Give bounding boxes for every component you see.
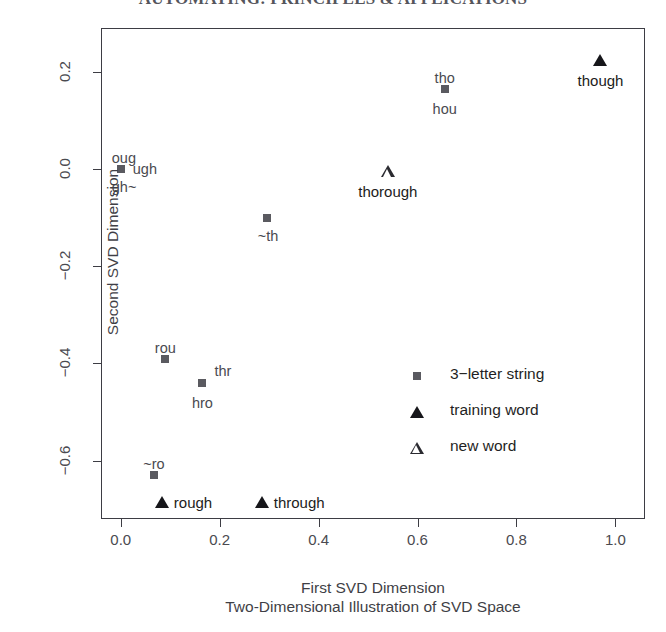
x-tick-label: 0.8 <box>506 531 527 548</box>
figure-subtitle: Two-Dimensional Illustration of SVD Spac… <box>61 598 666 616</box>
x-tick-mark <box>516 519 517 527</box>
svd-scatter-figure: 0.20.0−0.2−0.4−0.6 0.00.20.40.60.81.0 th… <box>0 0 666 632</box>
point-label: through <box>274 494 325 511</box>
x-tick-mark <box>220 519 221 527</box>
point-label: thorough <box>358 183 417 200</box>
point-label: ~th <box>258 228 279 244</box>
legend-marker <box>409 404 425 420</box>
data-point <box>198 379 206 387</box>
point-label: ~ro <box>143 456 164 472</box>
filled-triangle-marker <box>155 496 169 508</box>
x-tick-label: 0.2 <box>209 531 230 548</box>
point-label: ugh <box>133 161 157 177</box>
point-label: thr <box>214 363 231 379</box>
legend-marker <box>409 368 425 384</box>
legend-label: 3−letter string <box>450 365 544 383</box>
data-point <box>441 85 449 93</box>
filled-square-marker <box>198 379 206 387</box>
point-label: rough <box>174 494 212 511</box>
open-triangle-marker <box>410 442 424 454</box>
x-tick-mark <box>319 519 320 527</box>
y-tick-label: −0.6 <box>56 437 73 483</box>
x-tick-label: 1.0 <box>605 531 626 548</box>
y-tick-mark <box>93 363 101 364</box>
x-tick-mark <box>615 519 616 527</box>
filled-triangle-marker <box>410 406 424 418</box>
y-tick-label: 0.2 <box>56 48 73 94</box>
filled-triangle-marker <box>593 54 607 66</box>
x-axis-title: First SVD Dimension <box>101 579 645 597</box>
legend-item: 3−letter string <box>409 358 624 394</box>
filled-square-marker <box>263 214 271 222</box>
y-tick-label: 0.0 <box>56 145 73 191</box>
chart-legend: 3−letter stringtraining wordnew word <box>409 358 624 466</box>
filled-square-marker <box>441 85 449 93</box>
x-tick-mark <box>418 519 419 527</box>
y-tick-mark <box>93 72 101 73</box>
data-point <box>263 214 271 222</box>
legend-label: training word <box>450 401 539 419</box>
legend-label: new word <box>450 437 516 455</box>
y-axis-title: Second SVD Dimension <box>104 152 122 352</box>
y-tick-mark <box>93 169 101 170</box>
point-label: though <box>578 72 624 89</box>
filled-square-marker <box>150 471 158 479</box>
point-label: hou <box>433 101 457 117</box>
data-point <box>150 471 158 479</box>
y-tick-label: −0.2 <box>56 243 73 289</box>
legend-item: training word <box>409 394 624 430</box>
filled-square-marker <box>413 372 421 380</box>
x-tick-label: 0.6 <box>407 531 428 548</box>
point-label: hro <box>192 395 213 411</box>
point-label: tho <box>435 70 455 86</box>
data-point <box>593 54 607 66</box>
data-point <box>155 496 169 508</box>
y-tick-mark <box>93 266 101 267</box>
x-tick-label: 0.4 <box>308 531 329 548</box>
y-tick-mark <box>93 461 101 462</box>
data-point <box>255 496 269 508</box>
x-tick-mark <box>121 519 122 527</box>
legend-item: new word <box>409 430 624 466</box>
point-label: rou <box>155 340 176 356</box>
x-tick-label: 0.0 <box>110 531 131 548</box>
plot-area: 0.20.0−0.2−0.4−0.6 0.00.20.40.60.81.0 th… <box>101 28 645 519</box>
data-point <box>161 355 169 363</box>
filled-square-marker <box>161 355 169 363</box>
y-tick-label: −0.4 <box>56 340 73 386</box>
filled-triangle-marker <box>255 496 269 508</box>
data-point <box>381 165 395 177</box>
open-triangle-marker <box>381 165 395 177</box>
legend-marker <box>409 440 425 456</box>
